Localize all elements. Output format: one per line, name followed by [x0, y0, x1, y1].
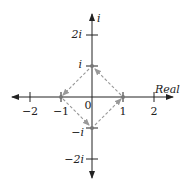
- point-neg1: [59, 95, 63, 99]
- origin-label: 0: [85, 99, 92, 112]
- y-label-neg2i: −2i: [64, 153, 84, 166]
- x-label-2: 2: [151, 105, 158, 118]
- point-neg-i: [90, 126, 94, 130]
- x-label-neg2: −2: [22, 105, 38, 118]
- y-label-neg-i: −i: [71, 126, 84, 139]
- x-label-1: 1: [120, 105, 127, 118]
- x-label-neg1: −1: [53, 105, 69, 118]
- point-i: [90, 64, 94, 68]
- arrow-neg-i-to-1: [95, 99, 121, 125]
- y-label-i: i: [78, 58, 82, 71]
- complex-plane-diagram: −2 −1 1 2 0 2i i −i −2i i Real: [0, 0, 186, 186]
- point-1: [121, 95, 125, 99]
- real-axis-label: Real: [154, 83, 180, 96]
- arrow-i-to-neg1: [63, 69, 89, 95]
- y-label-2i: 2i: [70, 28, 82, 41]
- arrow-1-to-i: [95, 69, 121, 95]
- imaginary-axis-label: i: [97, 12, 101, 25]
